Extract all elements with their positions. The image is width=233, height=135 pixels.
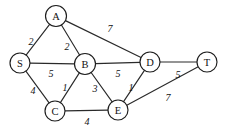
graph-node-t[interactable]: T [197,52,217,72]
node-label-c: C [51,106,58,117]
edge-weight-s-c: 4 [31,85,36,96]
graph-edge-e-t [127,67,198,106]
graph-canvas: 227541351457 SABCDET [0,0,233,135]
node-label-t: T [204,57,211,68]
edge-weight-e-t: 7 [166,92,172,103]
graph-node-a[interactable]: A [46,6,67,27]
edge-weight-b-d: 5 [116,68,121,79]
edge-weight-c-e: 4 [85,116,90,127]
graph-node-b[interactable]: B [75,54,96,75]
graph-diagram: 227541351457 SABCDET [0,0,233,135]
edge-weight-a-d: 7 [108,23,114,34]
graph-node-c[interactable]: C [45,101,65,121]
edge-weight-d-e: 1 [129,82,134,93]
node-label-e: E [115,105,121,116]
edge-weight-b-c: 1 [63,82,68,93]
graph-node-e[interactable]: E [108,100,128,120]
graph-edge-b-d [95,62,140,63]
edges-layer [26,21,198,111]
edge-weight-s-a: 2 [29,36,34,47]
edge-weight-a-b: 2 [65,41,70,52]
node-label-d: D [146,57,154,68]
graph-edge-c-e [65,110,108,111]
graph-node-d[interactable]: D [140,52,160,72]
node-label-b: B [81,59,88,70]
graph-edge-s-b [30,63,75,64]
node-label-a: A [52,11,60,22]
node-label-s: S [17,58,23,69]
edge-weight-s-b: 5 [49,68,54,79]
graph-edge-a-d [65,21,141,58]
graph-edge-s-c [26,71,49,103]
edge-weight-b-e: 3 [92,83,98,94]
edge-weight-d-t: 5 [176,69,181,80]
graph-node-s[interactable]: S [10,53,30,73]
